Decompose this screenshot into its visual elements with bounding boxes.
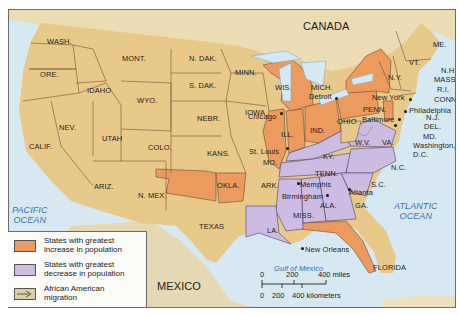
label-detroit: Detroit (309, 93, 332, 101)
label-ri: R.I. (437, 86, 449, 94)
label-memphis: Memphis (300, 181, 331, 189)
legend-item-increase: States with greatestincrease in populati… (14, 237, 122, 254)
label-penn: PENN. (363, 106, 386, 114)
city-dot-birmingham (326, 194, 329, 197)
label-utah: UTAH (102, 135, 122, 143)
label-ky: KY. (323, 153, 334, 161)
label-ind: IND. (310, 127, 325, 135)
map-legend: States with greatestincrease in populati… (8, 231, 147, 307)
label-wash: WASH. (47, 38, 72, 46)
label-ariz: ARIZ. (94, 183, 114, 191)
label-baltimore: Baltimore (362, 116, 395, 124)
label-ill: ILL. (281, 131, 294, 139)
label-new-york: New York (372, 94, 405, 102)
label-mo: MO. (263, 159, 277, 167)
legend-text-decrease: States with greatestdecrease in populati… (44, 261, 125, 278)
scale-km-200: 200 (272, 291, 285, 300)
label-wis: WIS. (275, 84, 292, 92)
label-calif: CALIF. (29, 143, 52, 151)
city-dot-philadelphia (404, 110, 407, 113)
label-new-orleans: New Orleans (305, 246, 349, 254)
label-sdak: S. DAK. (189, 82, 216, 90)
cuba-landmass (381, 295, 455, 307)
legend-swatch-increase (14, 240, 36, 252)
label-wv: W.V. (355, 139, 371, 147)
label-washington-dc: Washington, D.C. (413, 142, 456, 159)
scale-km-0: 0 (260, 291, 264, 300)
label-miss: MISS. (293, 212, 314, 220)
state-nc (346, 147, 396, 173)
legend-text-increase: States with greatestincrease in populati… (44, 237, 122, 254)
label-nj: N.J. (426, 114, 440, 122)
label-mass: MASS. (434, 76, 456, 84)
label-ga: GA. (355, 202, 368, 210)
label-idaho: IDAHO (87, 87, 111, 95)
label-mexico: MEXICO (157, 281, 201, 292)
label-minn: MINN. (235, 69, 257, 77)
label-colo: COLO. (148, 144, 172, 152)
label-chicago: Chicago (248, 113, 276, 121)
city-dot-chicago (280, 112, 283, 115)
migration-arrow-icon (14, 288, 36, 300)
label-okla: OKLA. (217, 182, 240, 190)
label-birmingham: Birmingham (282, 193, 323, 201)
label-conn: CONN. (434, 96, 456, 104)
label-st-louis: St. Louis (249, 148, 279, 156)
label-la: LA. (267, 227, 279, 235)
city-dot-washington-dc (394, 124, 397, 127)
scale-bar: 0 200 400 miles 0 200 400 kilometers (260, 270, 370, 304)
label-atlantic-ocean: ATLANTIC OCEAN (394, 201, 438, 222)
label-vt: VT. (409, 59, 420, 67)
city-dot-detroit (335, 97, 338, 100)
label-wyo: WYO. (137, 97, 157, 105)
label-ark: ARK. (261, 182, 279, 190)
label-ohio: OHIO (337, 118, 357, 126)
label-sc: S.C. (371, 181, 386, 189)
label-kans: KANS. (207, 150, 230, 158)
city-dot-baltimore (398, 118, 401, 121)
legend-text-migration: African Americanmigration (44, 285, 104, 302)
label-tenn: TENN. (315, 170, 338, 178)
scale-km-400: 400 kilometers (292, 291, 341, 300)
label-nev: NEV. (59, 124, 76, 132)
label-pacific-ocean: PACIFIC OCEAN (12, 205, 48, 226)
label-nc: N.C. (391, 164, 406, 172)
label-nmex: N. MEX. (138, 192, 167, 200)
label-mich: MICH. (311, 84, 333, 92)
label-ndak: N. DAK. (189, 55, 217, 63)
label-texas: TEXAS (199, 223, 224, 231)
label-canada: CANADA (303, 21, 349, 32)
label-ny: N.Y. (388, 74, 402, 82)
label-me: ME. (433, 41, 447, 49)
label-ore: ORE. (40, 71, 59, 79)
legend-item-decrease: States with greatestdecrease in populati… (14, 261, 125, 278)
label-atlanta: Atlanta (349, 189, 373, 197)
legend-swatch-decrease (14, 264, 36, 276)
city-dot-new-york (409, 98, 412, 101)
label-philadelphia: Philadelphia (409, 107, 451, 115)
city-dot-st-louis (286, 147, 289, 150)
label-va: VA. (382, 139, 394, 147)
label-md: MD. (423, 133, 437, 141)
label-del: DEL. (424, 123, 441, 131)
label-ala: ALA. (320, 202, 337, 210)
label-florida: FLORIDA (373, 264, 406, 272)
label-nebr: NEBR. (197, 115, 220, 123)
legend-item-migration: African Americanmigration (14, 285, 104, 302)
label-mont: MONT. (122, 55, 146, 63)
city-dot-new-orleans (301, 247, 304, 250)
label-nh: N.H. (441, 67, 456, 75)
